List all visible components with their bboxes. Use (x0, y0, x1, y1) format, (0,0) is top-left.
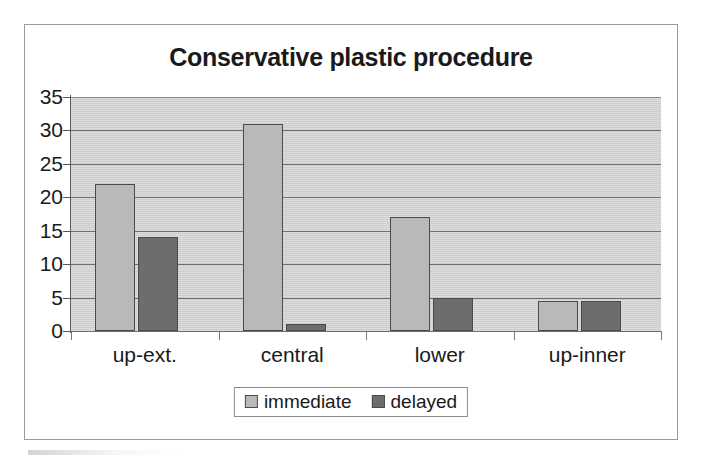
x-axis-category-label: lower (366, 343, 514, 367)
gridline (71, 97, 661, 98)
x-axis-category-label: up-inner (514, 343, 662, 367)
y-axis-tick-label: 20 (25, 186, 63, 207)
y-axis-tick (63, 298, 71, 299)
gridline (71, 331, 661, 332)
chart-legend: immediatedelayed (234, 387, 468, 417)
gridline (71, 231, 661, 232)
y-axis-tick (63, 130, 71, 131)
y-axis-tick (63, 331, 71, 332)
legend-entry-immediate[interactable]: immediate (245, 392, 352, 411)
bar-delayed-upext (138, 237, 178, 331)
y-axis-tick (63, 264, 71, 265)
x-axis-category-label: central (219, 343, 367, 367)
chart-title: Conservative plastic procedure (25, 43, 677, 72)
y-axis-tick (63, 97, 71, 98)
legend-entry-delayed[interactable]: delayed (372, 392, 458, 411)
x-axis-tick (71, 331, 72, 340)
y-axis-tick-label: 15 (25, 220, 63, 241)
legend-label: immediate (264, 392, 352, 411)
y-axis-tick (63, 231, 71, 232)
chart-frame: Conservative plastic procedure 353025201… (24, 24, 678, 440)
legend-swatch-icon (372, 395, 385, 408)
gridline (71, 130, 661, 131)
x-axis-category-label: up-ext. (71, 343, 219, 367)
y-axis-labels: 35302520151050 (25, 25, 63, 441)
bar-delayed-lower (433, 298, 473, 331)
x-axis-tick (514, 331, 515, 340)
y-axis-tick (63, 197, 71, 198)
y-axis-tick-label: 30 (25, 119, 63, 140)
bar-immediate-upinner (538, 301, 578, 331)
bar-delayed-upinner (581, 301, 621, 331)
bar-immediate-lower (390, 217, 430, 331)
y-axis-tick-label: 10 (25, 253, 63, 274)
y-axis-tick-label: 25 (25, 153, 63, 174)
gridline (71, 197, 661, 198)
x-axis-tick (661, 331, 662, 340)
y-axis-tick-label: 0 (25, 320, 63, 341)
bar-delayed-central (286, 324, 326, 331)
x-axis-tick (219, 331, 220, 340)
x-axis-labels: up-ext.centrallowerup-inner (71, 343, 661, 375)
legend-swatch-icon (245, 395, 258, 408)
bar-immediate-central (243, 124, 283, 331)
plot-area (71, 97, 661, 331)
bar-immediate-upext (95, 184, 135, 331)
x-axis-tick (366, 331, 367, 340)
scan-artifact (28, 450, 178, 455)
legend-label: delayed (391, 392, 458, 411)
y-axis-tick (63, 164, 71, 165)
y-axis-tick-label: 5 (25, 287, 63, 308)
y-axis-tick-label: 35 (25, 86, 63, 107)
gridline (71, 164, 661, 165)
